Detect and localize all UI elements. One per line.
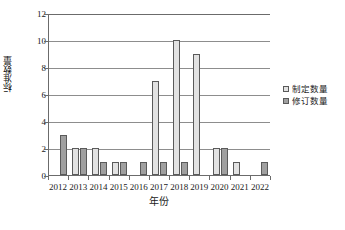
bar (72, 148, 79, 175)
x-axis-tick-label: 2014 (89, 181, 107, 193)
bar (100, 162, 107, 176)
y-axis-tick-mark (44, 14, 48, 15)
x-axis-tick-label: 2019 (190, 181, 208, 193)
legend-item: 修订数量 (283, 95, 343, 107)
x-axis-tick-label: 2015 (110, 181, 128, 193)
x-axis-tick-mark (189, 176, 190, 180)
legend-swatch-icon (283, 98, 289, 104)
bar (193, 54, 200, 176)
x-axis-tick-label: 2013 (69, 181, 87, 193)
bar-group (110, 14, 130, 175)
x-axis-tick-label: 2016 (130, 181, 148, 193)
bar-group (231, 14, 251, 175)
bar (152, 81, 159, 176)
legend-label: 修订数量 (292, 96, 328, 106)
x-axis-tick-mark (209, 176, 210, 180)
bar-group (251, 14, 271, 175)
bar (120, 162, 127, 176)
x-axis-tick-marks (48, 176, 270, 180)
x-axis-tick-mark (149, 176, 150, 180)
y-axis-tick-mark (44, 95, 48, 96)
x-axis-tick-label: 2021 (231, 181, 249, 193)
x-axis-tick-label: 2022 (251, 181, 269, 193)
bar (173, 40, 180, 175)
bar (112, 162, 119, 176)
x-axis-tick-mark (230, 176, 231, 180)
bar (80, 148, 87, 175)
x-axis-tick-labels: 2012201320142015201620172018201920202021… (48, 181, 270, 194)
y-axis-tick-labels: 024681012 (26, 14, 46, 176)
bar (92, 148, 99, 175)
x-axis-tick-label: 2018 (170, 181, 188, 193)
legend-swatch-icon (283, 86, 289, 92)
bar (233, 162, 240, 176)
x-axis-title: 年份 (48, 196, 270, 208)
chart-legend: 制定数量修订数量 (283, 83, 343, 107)
bars-layer (49, 14, 270, 175)
bar-group (210, 14, 230, 175)
x-axis-tick-mark (48, 176, 49, 180)
x-axis-tick-mark (169, 176, 170, 180)
bar (181, 162, 188, 176)
y-axis-tick-mark (44, 149, 48, 150)
x-axis-tick-mark (129, 176, 130, 180)
y-axis-tick-mark (44, 176, 48, 177)
bar (261, 162, 268, 176)
bar-group (190, 14, 210, 175)
bar (213, 148, 220, 175)
x-axis-tick-label: 2012 (49, 181, 67, 193)
bar (160, 162, 167, 176)
y-axis-tick-mark (44, 41, 48, 42)
legend-label: 制定数量 (292, 84, 328, 94)
y-axis-tick-mark (44, 122, 48, 123)
bar-group (150, 14, 170, 175)
x-axis-tick-label: 2017 (150, 181, 168, 193)
bar-group (89, 14, 109, 175)
bar (221, 148, 228, 175)
bar-group (170, 14, 190, 175)
x-axis-tick-label: 2020 (211, 181, 229, 193)
y-axis-title: 标准数量 (2, 56, 16, 92)
bar (140, 162, 147, 176)
x-axis-tick-mark (68, 176, 69, 180)
x-axis-tick-mark (109, 176, 110, 180)
plot-area (48, 14, 270, 176)
bar (60, 135, 67, 176)
legend-item: 制定数量 (283, 83, 343, 95)
x-axis-tick-mark (270, 176, 271, 180)
bar-group (69, 14, 89, 175)
y-axis-tick-mark (44, 68, 48, 69)
bar-chart: 标准数量 024681012 2012201320142015201620172… (0, 0, 345, 230)
bar-group (130, 14, 150, 175)
bar-group (49, 14, 69, 175)
x-axis-tick-mark (88, 176, 89, 180)
x-axis-tick-mark (250, 176, 251, 180)
